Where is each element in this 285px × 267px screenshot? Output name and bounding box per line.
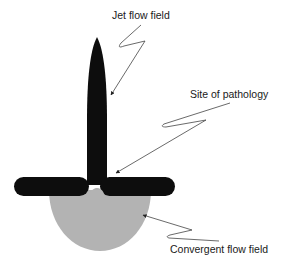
site-of-pathology-label: Site of pathology <box>190 88 268 100</box>
jet-flow-field-label: Jet flow field <box>112 9 170 21</box>
flow-diagram <box>0 0 285 267</box>
jet-flow-shape <box>87 37 107 185</box>
convergent-flow-region <box>49 190 151 251</box>
barrier-right <box>100 177 175 196</box>
convergent-flow-field-label: Convergent flow field <box>170 243 268 255</box>
jet-leader-line <box>111 25 145 95</box>
site-leader-line <box>116 103 230 173</box>
barrier-left <box>14 177 89 196</box>
convergent-leader-line <box>143 215 219 241</box>
